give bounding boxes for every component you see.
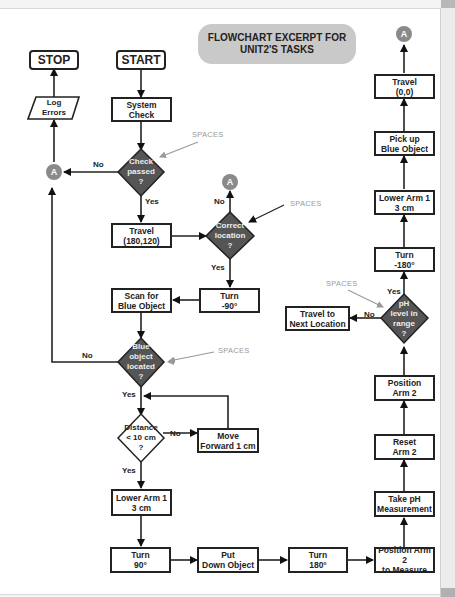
correct-location-decision: Correct location ? [206, 221, 254, 251]
lower-arm1-step-a: Lower Arm 1 3 cm [111, 489, 172, 516]
connector-a-right: A [396, 26, 412, 42]
put-down-object-step: Put Down Object [197, 547, 259, 573]
travel-180-120-step: Travel (180,120) [111, 223, 172, 248]
move-forward-step: Move Forward 1 cm [197, 428, 259, 453]
check-passed-decision: Check passed ? [118, 157, 164, 187]
connector-a-left: A [46, 164, 62, 180]
reset-arm2-step: Reset Arm 2 [374, 434, 435, 460]
edge-label-yes: Yes [387, 287, 401, 296]
edge-label-no: No [364, 310, 375, 319]
edge-label-no: No [170, 429, 181, 438]
lower-arm1-step-b: Lower Arm 1 3 cm [374, 190, 435, 215]
position-arm2-measure-step: Position Arm 2 to Measure [374, 547, 435, 573]
scan-blue-object-step: Scan for Blue Object [111, 288, 172, 313]
distance-decision: Distance < 10 cm ? [116, 423, 166, 453]
edge-label-yes: Yes [145, 197, 159, 206]
turn-neg90-step: Turn -90° [199, 288, 260, 313]
log-errors-io: Log Errors [30, 97, 78, 119]
stop-terminal: STOP [29, 50, 79, 70]
ph-range-decision: pH level in range ? [381, 299, 427, 339]
edge-label-yes: Yes [211, 263, 225, 272]
take-ph-step: Take pH Measurement [374, 491, 435, 517]
connector-a-middle: A [222, 174, 238, 190]
edge-label-yes: Yes [122, 466, 136, 475]
system-check-step: System Check [111, 97, 172, 122]
spaces-annotation: SPACES [290, 199, 322, 208]
edge-label-yes: Yes [122, 390, 136, 399]
turn-90-step: Turn 90° [110, 547, 171, 573]
edge-label-no: No [82, 351, 93, 360]
position-arm2-step: Position Arm 2 [374, 375, 435, 401]
blue-object-located-decision: Blue object located ? [118, 342, 164, 382]
spaces-annotation: SPACES [218, 346, 250, 355]
start-terminal: START [116, 50, 166, 70]
edge-label-no: No [93, 160, 104, 169]
edge-label-no: No [214, 197, 225, 206]
spaces-annotation: SPACES [192, 130, 224, 139]
turn-180-step: Turn 180° [288, 547, 348, 573]
turn-neg180-step: Turn -180° [374, 247, 435, 272]
flowchart-title: FLOWCHART EXCERPT FOR UNIT2'S TASKS [198, 24, 356, 64]
spaces-annotation: SPACES [326, 279, 358, 288]
pick-up-blue-object-step: Pick up Blue Object [374, 131, 435, 156]
travel-0-0-step: Travel (0,0) [374, 74, 435, 99]
travel-next-location-step: Travel to Next Location [285, 306, 350, 331]
